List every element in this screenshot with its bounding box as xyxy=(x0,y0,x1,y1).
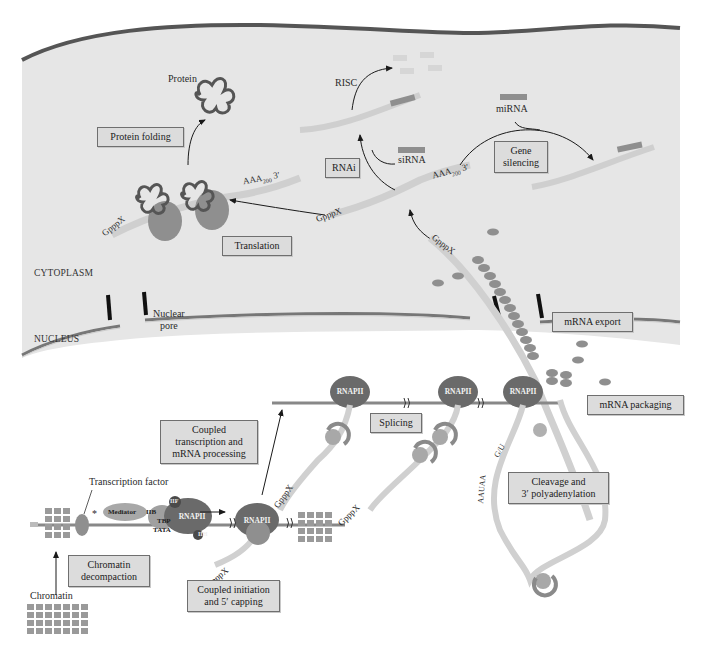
rnapii-label: RNAPII xyxy=(170,512,214,521)
coupled-transcription-box: Coupled transcription and mRNA processin… xyxy=(160,420,258,464)
iif-label: IIF xyxy=(170,498,178,504)
free-protein xyxy=(432,280,444,287)
coupled-initiation-box: Coupled initiation and 5′ capping xyxy=(187,580,280,612)
protein-folding-box: Protein folding xyxy=(97,127,184,147)
tata-label: TATA xyxy=(153,526,171,534)
cytoplasm-region xyxy=(22,25,680,358)
rnapii-label: RNAPII xyxy=(328,387,372,396)
cytoplasm-label: CYTOPLASM xyxy=(34,268,93,278)
asterisk-label: * xyxy=(92,508,97,520)
gene-silencing-box: Gene silencing xyxy=(494,141,548,173)
sirna-label: siRNA xyxy=(398,154,426,166)
iib-label: IIB xyxy=(146,508,156,516)
cleavage-polyadenylation-box: Cleavage and 3′ polyadenylation xyxy=(508,472,609,504)
chromatin-label: Chromatin xyxy=(30,590,73,602)
compact-chromatin xyxy=(27,604,88,634)
translation-box: Translation xyxy=(222,236,292,256)
iih-label: IIH xyxy=(198,531,207,537)
nucleus-label: NUCLEUS xyxy=(34,334,79,344)
mirna-label: miRNA xyxy=(496,103,528,115)
rnapii-label: RNAPII xyxy=(501,387,545,396)
splicing-box: Splicing xyxy=(370,413,422,433)
sirna-strand xyxy=(398,147,425,153)
chromatin-decompaction-box: Chromatin decompaction xyxy=(68,555,150,587)
mrna-packaging-box: mRNA packaging xyxy=(587,395,684,415)
transcription-factor-label: Transcription factor xyxy=(89,476,168,488)
rnapii-label: RNAPII xyxy=(436,387,480,396)
protein-label: Protein xyxy=(168,73,197,85)
mrna-export-box: mRNA export xyxy=(552,312,633,332)
rnapii-label: RNAPII xyxy=(235,516,279,525)
nuclear-pore-bar xyxy=(108,295,110,320)
risc-label: RISC xyxy=(335,77,357,89)
mediator-label: Mediator xyxy=(108,508,136,516)
transcription-factor xyxy=(75,514,89,536)
mirna-strand xyxy=(500,94,527,100)
rnai-box: RNAi xyxy=(325,158,360,178)
tbp-label: TBP xyxy=(157,517,171,525)
nuclear-pore-label: Nuclear pore xyxy=(153,308,185,331)
